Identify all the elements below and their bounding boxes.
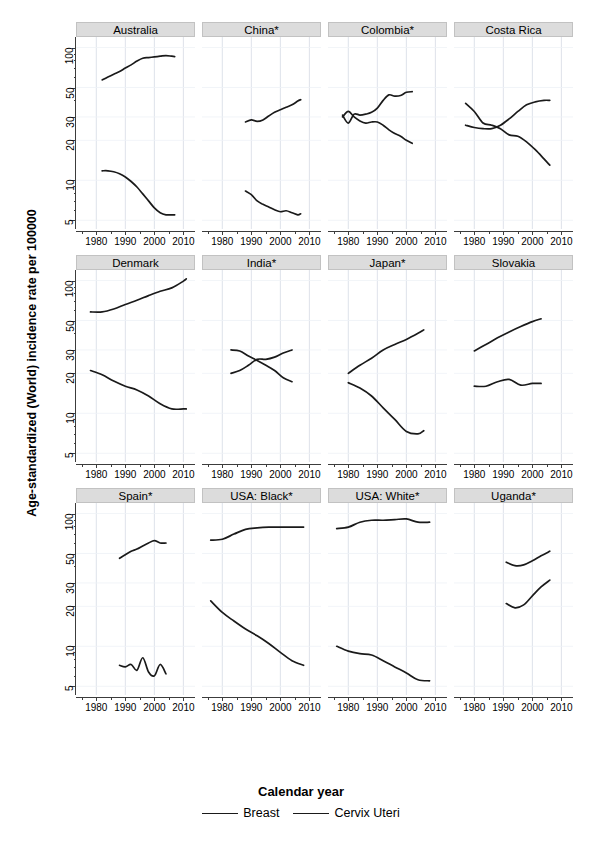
x-axis: 1980199020002010 xyxy=(202,697,321,723)
x-tick-label: 2010 xyxy=(172,702,194,713)
y-tick-label: 5 xyxy=(65,453,76,459)
panel-japan: Japan* xyxy=(328,255,447,462)
chart-legend: Breast Cervix Uteri xyxy=(0,806,602,820)
y-tick-label: 30 xyxy=(65,583,76,594)
x-tick-label: 1980 xyxy=(337,469,359,480)
x-tick-label: 2000 xyxy=(395,236,417,247)
x-axis: 1980199020002010 xyxy=(76,231,195,257)
panel-title: Costa Rica xyxy=(454,22,573,37)
y-axis: 510203050100 xyxy=(50,37,76,229)
x-axis-title: Calendar year xyxy=(0,784,602,799)
x-tick-label: 1990 xyxy=(366,469,388,480)
x-tick-label: 1990 xyxy=(492,236,514,247)
panel-title: India* xyxy=(202,255,321,270)
y-tick-label: 10 xyxy=(65,646,76,657)
y-tick-label: 10 xyxy=(65,413,76,424)
plot-area xyxy=(76,503,195,695)
y-axis-title: Age-standardized (World) incidence rate … xyxy=(25,153,39,573)
x-tick-label: 2000 xyxy=(521,702,543,713)
panel-costa-rica: Costa Rica xyxy=(454,22,573,229)
legend-item-breast: Breast xyxy=(202,806,279,820)
panel-title: USA: Black* xyxy=(202,488,321,503)
x-tick-label: 1990 xyxy=(240,236,262,247)
y-tick-label: 20 xyxy=(65,606,76,617)
y-axis: 510203050100 xyxy=(50,503,76,695)
plot-area xyxy=(328,37,447,229)
y-tick-label: 50 xyxy=(65,320,76,331)
x-tick-label: 1980 xyxy=(211,236,233,247)
panel-slovakia: Slovakia xyxy=(454,255,573,462)
x-axis: 1980199020002010 xyxy=(454,697,573,723)
x-tick-label: 1980 xyxy=(463,469,485,480)
x-tick-label: 2000 xyxy=(269,702,291,713)
plot-area xyxy=(202,503,321,695)
plot-area xyxy=(328,270,447,462)
plot-area xyxy=(76,270,195,462)
x-tick-label: 2010 xyxy=(172,469,194,480)
x-tick-label: 1990 xyxy=(240,469,262,480)
x-tick-label: 2000 xyxy=(143,469,165,480)
x-tick-label: 1990 xyxy=(240,702,262,713)
panel-colombia: Colombia* xyxy=(328,22,447,229)
x-tick-label: 1980 xyxy=(85,702,107,713)
x-tick-label: 2000 xyxy=(269,236,291,247)
x-tick-label: 1990 xyxy=(366,702,388,713)
y-tick-label: 30 xyxy=(65,117,76,128)
x-tick-label: 1990 xyxy=(366,236,388,247)
x-tick-label: 1980 xyxy=(337,702,359,713)
x-axis: 1980199020002010 xyxy=(76,464,195,490)
x-tick-label: 2000 xyxy=(269,469,291,480)
plot-area xyxy=(202,37,321,229)
x-tick-label: 2000 xyxy=(521,469,543,480)
panel-title: Spain* xyxy=(76,488,195,503)
x-tick-label: 1980 xyxy=(85,236,107,247)
panel-title: Denmark xyxy=(76,255,195,270)
x-tick-label: 1990 xyxy=(114,469,136,480)
x-tick-label: 1990 xyxy=(114,236,136,247)
panel-title: Colombia* xyxy=(328,22,447,37)
x-axis: 1980199020002010 xyxy=(328,697,447,723)
x-tick-label: 1980 xyxy=(85,469,107,480)
plot-area xyxy=(328,503,447,695)
panel-usa-white: USA: White* xyxy=(328,488,447,695)
y-tick-label: 20 xyxy=(65,373,76,384)
panel-australia: Australia xyxy=(76,22,195,229)
panel-china: China* xyxy=(202,22,321,229)
x-tick-label: 2010 xyxy=(172,236,194,247)
x-tick-label: 1980 xyxy=(463,236,485,247)
x-tick-label: 2000 xyxy=(143,702,165,713)
plot-area xyxy=(454,270,573,462)
plot-area xyxy=(454,503,573,695)
chart-figure: Age-standardized (World) incidence rate … xyxy=(0,0,602,848)
y-tick-label: 50 xyxy=(65,553,76,564)
panel-spain: Spain* xyxy=(76,488,195,695)
x-axis: 1980199020002010 xyxy=(454,464,573,490)
x-tick-label: 1990 xyxy=(492,469,514,480)
legend-label-cervix-uteri: Cervix Uteri xyxy=(334,806,399,820)
y-tick-label: 5 xyxy=(65,220,76,226)
panel-india: India* xyxy=(202,255,321,462)
panel-title: China* xyxy=(202,22,321,37)
y-tick-label: 10 xyxy=(65,180,76,191)
x-tick-label: 2010 xyxy=(550,236,572,247)
panel-title: Australia xyxy=(76,22,195,37)
x-tick-label: 1990 xyxy=(114,702,136,713)
panel-title: USA: White* xyxy=(328,488,447,503)
x-tick-label: 1990 xyxy=(492,702,514,713)
plot-area xyxy=(76,37,195,229)
panel-title: Uganda* xyxy=(454,488,573,503)
y-tick-label: 20 xyxy=(65,140,76,151)
y-tick-label: 5 xyxy=(65,686,76,692)
x-tick-label: 2000 xyxy=(521,236,543,247)
x-axis: 1980199020002010 xyxy=(328,231,447,257)
x-tick-label: 2010 xyxy=(424,469,446,480)
x-tick-label: 1980 xyxy=(337,236,359,247)
x-tick-label: 2010 xyxy=(550,702,572,713)
panel-uganda: Uganda* xyxy=(454,488,573,695)
panel-usa-black: USA: Black* xyxy=(202,488,321,695)
panel-title: Slovakia xyxy=(454,255,573,270)
x-tick-label: 2010 xyxy=(298,469,320,480)
x-tick-label: 1980 xyxy=(211,702,233,713)
x-tick-label: 1980 xyxy=(463,702,485,713)
x-axis: 1980199020002010 xyxy=(202,464,321,490)
